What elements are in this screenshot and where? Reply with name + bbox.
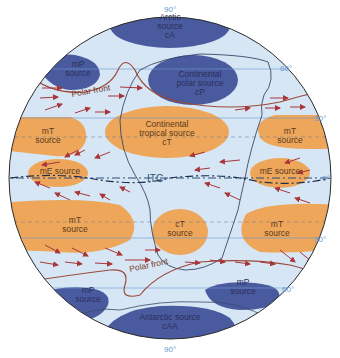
- svg-text:source: source: [264, 228, 290, 238]
- lat-label-90-south: 90°: [164, 345, 176, 354]
- svg-text:source: source: [167, 228, 193, 238]
- svg-text:source: source: [35, 135, 61, 145]
- svg-text:cA: cA: [165, 30, 175, 40]
- lat-label-equator: 0°: [322, 174, 330, 183]
- svg-text:source: source: [230, 286, 256, 296]
- svg-text:cAA: cAA: [162, 321, 178, 331]
- svg-text:cT: cT: [162, 137, 171, 147]
- svg-text:source: source: [62, 224, 88, 234]
- itc-label: ITC: [147, 173, 163, 184]
- lat-label-30-south: 30°: [314, 235, 326, 244]
- me-east-label: mE source: [260, 166, 301, 176]
- svg-text:source: source: [65, 68, 91, 78]
- lat-label-60-north: 60°: [280, 64, 292, 73]
- lat-label-60-south: 60°: [282, 285, 294, 294]
- lat-label-30-north: 30°: [314, 114, 326, 123]
- me-west-label: mE source: [40, 166, 81, 176]
- air-mass-diagram: 90° 60° 30° 0° 30° 60° 90° Arctic source…: [0, 0, 340, 358]
- mt-se-source-region: [241, 204, 340, 253]
- svg-text:source: source: [277, 135, 303, 145]
- svg-text:cP: cP: [195, 87, 205, 97]
- svg-text:source: source: [75, 294, 101, 304]
